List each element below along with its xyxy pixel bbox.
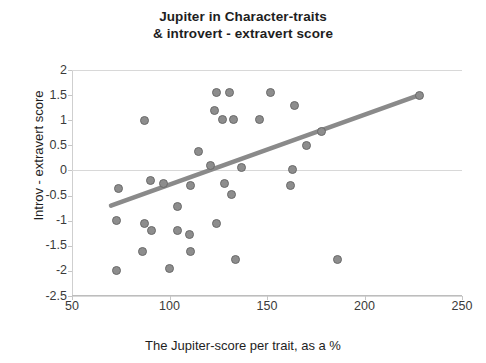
x-tick-label: 150: [257, 299, 278, 314]
x-tick-label: 200: [354, 299, 375, 314]
data-point: [210, 106, 219, 115]
data-point: [218, 115, 227, 124]
data-point: [140, 219, 149, 228]
y-tick-label: -0.5: [45, 189, 67, 202]
chart-title-line-2: & introvert - extravert score: [0, 25, 486, 42]
x-tick-label: 50: [65, 299, 79, 314]
y-axis-tick-labels: 21.510.50-0.5-1-1.5-2-2.5: [24, 70, 67, 296]
data-point: [317, 127, 326, 136]
trendline: [72, 70, 462, 296]
data-point: [255, 115, 264, 124]
data-point: [212, 88, 221, 97]
x-axis-tick-labels: 50100150200250: [72, 299, 462, 317]
y-tick-label: 1.5: [50, 89, 67, 102]
data-point: [185, 230, 194, 239]
scatter-chart: Jupiter in Character-traits & introvert …: [0, 0, 486, 363]
y-tick-label: 1: [60, 114, 67, 127]
y-tick-label: -2: [56, 264, 67, 277]
data-point: [206, 161, 215, 170]
y-tick-label: -2.5: [45, 290, 67, 303]
data-point: [173, 202, 182, 211]
chart-title: Jupiter in Character-traits & introvert …: [0, 8, 486, 42]
data-point: [290, 101, 299, 110]
y-tick-label: 2: [60, 64, 67, 77]
plot-area: [72, 70, 462, 296]
data-point: [229, 115, 238, 124]
data-point: [212, 219, 221, 228]
y-tick-label: 0: [60, 164, 67, 177]
data-point: [220, 179, 229, 188]
data-point: [138, 247, 147, 256]
data-point: [159, 179, 168, 188]
data-point: [140, 116, 149, 125]
y-tick-label: -1.5: [45, 239, 67, 252]
y-tick-label: -1: [56, 214, 67, 227]
data-point: [165, 264, 174, 273]
x-tick-label: 100: [159, 299, 180, 314]
x-tick-label: 250: [452, 299, 473, 314]
data-point: [415, 91, 424, 100]
data-point: [302, 141, 311, 150]
x-axis-title: The Jupiter-score per trait, as a %: [0, 338, 486, 353]
data-point: [114, 184, 123, 193]
data-point: [333, 255, 342, 264]
chart-title-line-1: Jupiter in Character-traits: [159, 9, 327, 24]
y-tick-label: 0.5: [50, 139, 67, 152]
data-point: [288, 165, 297, 174]
data-point: [286, 181, 295, 190]
data-point: [173, 226, 182, 235]
data-point: [146, 176, 155, 185]
